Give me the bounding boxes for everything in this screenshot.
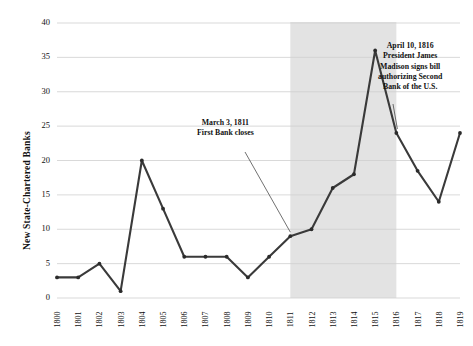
data-point-marker — [98, 262, 102, 266]
data-point-marker — [246, 275, 250, 279]
annotation-line: Madison signs bill — [378, 62, 442, 72]
data-point-marker — [310, 227, 314, 231]
data-point-marker — [204, 255, 208, 259]
data-point-marker — [182, 255, 186, 259]
annotation-line: April 10, 1816 — [378, 41, 442, 51]
chart-container: New State-Chartered Banks 05101520253035… — [0, 0, 473, 346]
data-point-marker — [458, 131, 462, 135]
data-point-marker — [140, 159, 144, 163]
data-point-marker — [225, 255, 229, 259]
data-point-marker — [437, 200, 441, 204]
annotation-second-bank-authorized: April 10, 1816President JamesMadison sig… — [378, 41, 442, 92]
data-point-marker — [55, 275, 59, 279]
data-point-marker — [416, 169, 420, 173]
annotation-line: Bank of the U.S. — [378, 82, 442, 92]
data-point-marker — [352, 172, 356, 176]
annotation-first-bank-closes: March 3, 1811First Bank closes — [197, 118, 254, 139]
data-point-marker — [331, 186, 335, 190]
data-point-marker — [76, 275, 80, 279]
data-point-marker — [394, 131, 398, 135]
annotation-line: First Bank closes — [197, 128, 254, 138]
data-point-marker — [267, 255, 271, 259]
data-point-marker — [161, 207, 165, 211]
annotation-line: March 3, 1811 — [197, 118, 254, 128]
annotation-line: President James — [378, 51, 442, 61]
annotation-line: authorizing Second — [378, 72, 442, 82]
data-point-marker — [373, 49, 377, 53]
annotation-leader-line-first-bank — [245, 152, 290, 232]
data-point-marker — [119, 289, 123, 293]
data-point-marker — [288, 234, 292, 238]
